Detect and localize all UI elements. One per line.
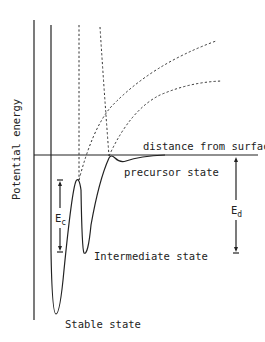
dashed-curve-upper [79,41,216,180]
stable-state-label: Stable state [65,318,141,330]
ed-label: Ed [231,204,242,219]
potential-curve [51,155,165,314]
precursor-state-label: precursor state [124,166,219,178]
precursor-wall-dotted [100,27,109,156]
y-axis-label: Potential energy [10,99,22,200]
potential-energy-diagram: Potential energy distance from surface p… [0,0,265,342]
x-axis-label: distance from surface [143,140,265,152]
intermediate-state-label: Intermediate state [94,250,208,262]
ec-label: Ec [55,212,66,227]
